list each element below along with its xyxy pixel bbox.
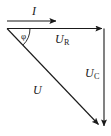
label-UR-main: U bbox=[55, 32, 64, 46]
label-UC-subscript: C bbox=[94, 72, 99, 81]
label-current-I: I bbox=[32, 5, 36, 17]
label-resistor-voltage-UR: UR bbox=[55, 33, 69, 45]
label-UC-main: U bbox=[85, 66, 94, 80]
phasor-diagram: I UR UC U φ bbox=[0, 0, 111, 136]
label-UR-subscript: R bbox=[64, 38, 69, 47]
label-phase-angle-phi: φ bbox=[21, 32, 26, 41]
label-total-voltage-U: U bbox=[33, 84, 42, 96]
label-capacitor-voltage-UC: UC bbox=[85, 67, 99, 79]
